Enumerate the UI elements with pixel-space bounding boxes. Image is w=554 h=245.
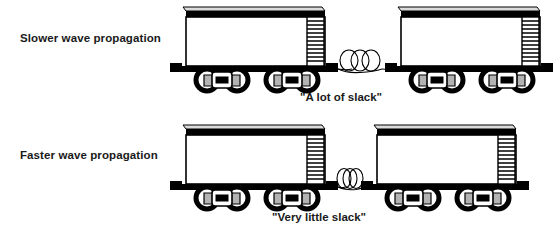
caption-very-little-slack: "Very little slack" (272, 211, 366, 223)
label-faster-wave-propagation: Faster wave propagation (20, 149, 158, 161)
slack-coupling-a-lot (338, 50, 391, 73)
caption-a-lot-of-slack: "A lot of slack" (300, 91, 382, 103)
label-slower-wave-propagation: Slower wave propagation (20, 32, 161, 44)
row-slower-wave (170, 7, 553, 91)
row-faster-wave (170, 125, 529, 209)
railcar-left-bottom (170, 125, 338, 209)
railcar-right-bottom (361, 125, 529, 209)
railcar-left-top (170, 7, 338, 91)
railcar-right-top (385, 7, 553, 91)
slack-coupling-very-little (337, 169, 369, 190)
